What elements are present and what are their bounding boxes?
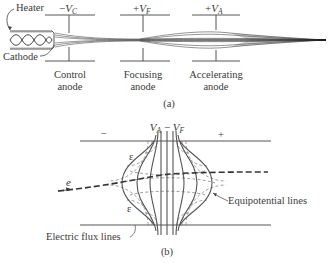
accelerating-voltage-label: +VA xyxy=(205,2,223,16)
accelerating-anode-label-1: Accelerating xyxy=(189,69,243,80)
focusing-anode-label-1: Focusing xyxy=(124,69,163,80)
cathode-label: Cathode xyxy=(3,51,38,62)
control-anode-label-1: Control xyxy=(54,69,86,80)
field-symbol-top: ε xyxy=(129,151,134,162)
electron-gun-diagram: Heater Cathode −VC Control xyxy=(0,0,336,263)
accelerating-anode-label-2: anode xyxy=(203,81,228,92)
heater-label: Heater xyxy=(16,2,44,13)
plus-sign: + xyxy=(218,129,224,140)
flux-leader xyxy=(130,225,135,237)
figure-a-caption: (a) xyxy=(163,98,175,110)
flux-label: Electric flux lines xyxy=(46,231,121,242)
figure-b: VA − VF − + xyxy=(46,121,307,258)
cathode-leader xyxy=(40,45,54,56)
focusing-anode: +VF Focusing anode xyxy=(120,2,170,92)
field-symbol-bottom: ε xyxy=(127,203,132,214)
heater-coil xyxy=(10,35,52,46)
equipotential-label: Equipotential lines xyxy=(228,195,307,206)
accelerating-anode: +VA Accelerating anode xyxy=(189,2,243,92)
cathode xyxy=(10,31,54,49)
control-anode-label-2: anode xyxy=(57,81,82,92)
control-voltage-label: −VC xyxy=(59,2,78,16)
equipotential-lines xyxy=(122,131,212,235)
figure-b-caption: (b) xyxy=(161,246,174,258)
electron-label: e xyxy=(66,176,71,188)
minus-sign: − xyxy=(101,128,107,139)
figure-a: Heater Cathode −VC Control xyxy=(3,2,326,110)
focusing-voltage-label: +VF xyxy=(133,2,151,16)
focusing-anode-label-2: anode xyxy=(130,81,155,92)
